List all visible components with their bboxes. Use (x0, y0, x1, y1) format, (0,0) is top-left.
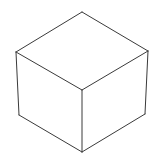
cube-edge-right-bottom_right (145, 51, 148, 114)
cube-edge-left-bottom_left (16, 52, 19, 115)
cube-edge-bottom_left-bottom (19, 115, 82, 152)
cube-svg (0, 0, 158, 159)
cube-edge-top-left (16, 12, 82, 52)
cube-edges (16, 12, 148, 152)
cube-edge-top-right (82, 12, 148, 51)
cube-diagram (0, 0, 158, 159)
cube-edge-bottom_right-bottom (82, 114, 145, 152)
cube-edge-left-front (16, 52, 82, 90)
cube-edge-right-front (82, 51, 148, 90)
